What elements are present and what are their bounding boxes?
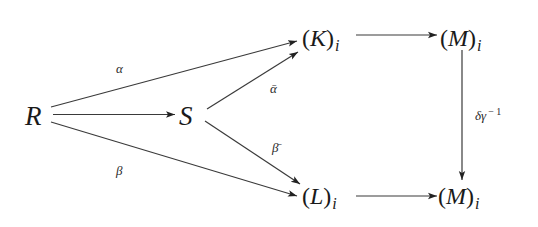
edges [51, 35, 462, 196]
label-beta: β [115, 163, 123, 178]
label-alpha-bar: ᾱ [270, 81, 278, 96]
node-l: (L)i [302, 183, 337, 212]
label-beta-bar: β̄ [271, 140, 282, 155]
node-m-top: (M)i [440, 25, 481, 54]
arrow-s-to-l [205, 121, 300, 184]
node-m-bottom-subscript: i [475, 195, 479, 212]
node-s: S [179, 101, 193, 131]
node-l-subscript: i [332, 195, 336, 212]
paren-close: ) [468, 25, 476, 51]
paren-close: ) [323, 183, 331, 209]
edge-labels: α β ᾱ β̄ δγ− 1 [115, 61, 501, 178]
commutative-diagram: R S (K)i (M)i (L)i (M)i α β ᾱ β̄ δγ− 1 [0, 0, 538, 227]
label-delta-gamma-inverse: δγ− 1 [475, 106, 501, 123]
node-k: (K)i [302, 25, 339, 54]
paren-close: ) [466, 183, 474, 209]
node-m-top-subscript: i [477, 37, 481, 54]
paren-open: ( [440, 25, 448, 51]
node-m-bottom-symbol: M [445, 183, 468, 209]
paren-open: ( [438, 183, 446, 209]
node-r: R [24, 101, 42, 131]
paren-open: ( [302, 183, 310, 209]
arrow-s-to-k [207, 52, 298, 109]
node-k-subscript: i [335, 37, 339, 54]
arrow-r-to-l [51, 122, 297, 196]
node-m-top-symbol: M [447, 25, 470, 51]
paren-open: ( [302, 25, 310, 51]
arrow-r-to-k [51, 41, 297, 107]
label-alpha: α [116, 61, 124, 76]
node-l-symbol: L [309, 183, 323, 209]
label-inverse-exponent: − 1 [488, 106, 501, 117]
label-delta-gamma: δγ [475, 108, 487, 123]
paren-close: ) [326, 25, 334, 51]
node-m-bottom: (M)i [438, 183, 479, 212]
